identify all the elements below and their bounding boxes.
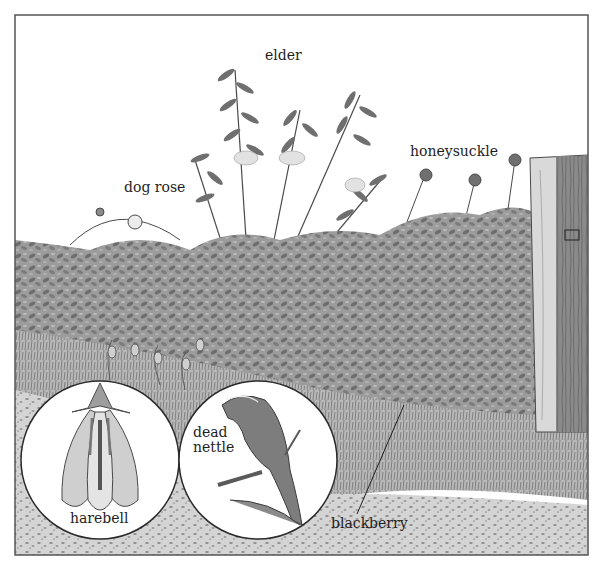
fence-post — [530, 155, 588, 432]
hedgerow-illustration: elder dog rose honeysuckle harebell dead… — [0, 0, 601, 568]
label-blackberry: blackberry — [331, 516, 408, 531]
dead-nettle-inset — [179, 381, 337, 539]
label-dog-rose: dog rose — [124, 180, 185, 195]
label-honeysuckle: honeysuckle — [410, 144, 498, 159]
label-harebell: harebell — [70, 511, 129, 526]
label-dead-nettle: dead nettle — [193, 425, 234, 454]
label-elder: elder — [265, 48, 302, 63]
